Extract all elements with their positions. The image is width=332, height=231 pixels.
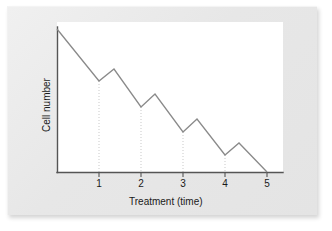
x-tick-label-5: 5 [259,178,275,189]
data-series-cell-number [57,29,267,172]
figure-root: 1 2 3 4 5 Treatment (time) Cell number [0,0,332,231]
y-axis-title: Cell number [41,78,52,132]
x-axis-title: Treatment (time) [129,196,203,207]
x-tick-label-1: 1 [91,178,107,189]
gridlines [99,81,225,172]
x-tick-label-4: 4 [217,178,233,189]
x-tick-label-3: 3 [175,178,191,189]
x-tick-label-2: 2 [133,178,149,189]
